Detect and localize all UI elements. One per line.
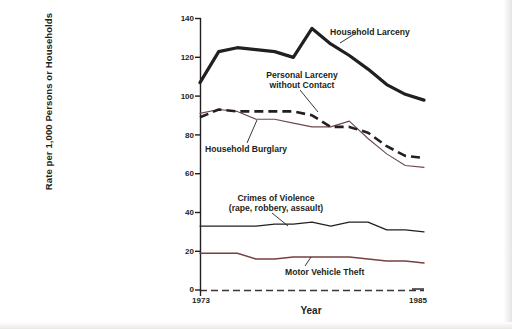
annotation-motor-vehicle-theft: Motor Vehicle Theft bbox=[285, 267, 364, 277]
leader-line-personal-larceny bbox=[300, 90, 318, 112]
y-tick-0: 0 bbox=[172, 285, 194, 294]
x-axis-title: Year bbox=[196, 305, 426, 316]
y-tick-120: 120 bbox=[172, 53, 194, 62]
victimization-rates-line-chart: 140 120 100 80 60 40 20 0 1973 1985 Rate… bbox=[0, 0, 512, 329]
series-line-motor-vehicle-theft bbox=[200, 253, 424, 263]
annotation-crimes-of-violence-line1: Crimes of Violence bbox=[218, 193, 334, 203]
y-tick-140: 140 bbox=[172, 14, 194, 23]
chart-plot-area bbox=[0, 0, 512, 329]
y-tick-80: 80 bbox=[172, 131, 194, 140]
y-tick-100: 100 bbox=[172, 92, 194, 101]
y-tick-60: 60 bbox=[172, 169, 194, 178]
scan-edge-bottom bbox=[0, 322, 512, 329]
y-tick-40: 40 bbox=[172, 208, 194, 217]
scan-edge-right bbox=[503, 0, 512, 329]
annotation-crimes-of-violence-line2: (rape, robbery, assault) bbox=[218, 203, 334, 213]
annotation-household-burglary: Household Burglary bbox=[205, 144, 287, 154]
annotation-household-larceny: Household Larceny bbox=[330, 27, 410, 37]
leader-line-motor-vehicle-theft bbox=[305, 257, 311, 266]
x-tick-1985: 1985 bbox=[403, 296, 433, 305]
leader-line-household-burglary bbox=[247, 120, 257, 143]
series-line-household-burglary bbox=[200, 110, 424, 168]
annotation-personal-larceny-line2: without Contact bbox=[247, 80, 357, 90]
y-tick-20: 20 bbox=[172, 247, 194, 256]
x-tick-1973: 1973 bbox=[186, 296, 216, 305]
y-axis-title: Rate per 1,000 Persons or Households bbox=[43, 0, 54, 212]
scanned-page: 2 TRENDS IN VICTIMIZATION RATES FOR 1973… bbox=[0, 0, 512, 329]
annotation-personal-larceny-line1: Personal Larceny bbox=[247, 70, 357, 80]
series-line-crimes-of-violence bbox=[200, 222, 424, 232]
